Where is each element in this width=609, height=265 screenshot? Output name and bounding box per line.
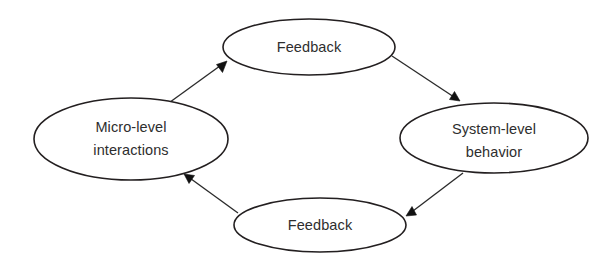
diagram-canvas: Feedback Micro-level interactions System… bbox=[0, 0, 609, 265]
feedback-loop-diagram: Feedback Micro-level interactions System… bbox=[0, 0, 609, 265]
arrowhead-icon bbox=[450, 92, 461, 102]
node-label-line-2: interactions bbox=[93, 142, 168, 158]
arrowhead-icon bbox=[217, 61, 228, 73]
edge-micro-to-feedback-top bbox=[166, 61, 227, 105]
edge-line bbox=[392, 56, 457, 99]
node-micro-level-interactions[interactable]: Micro-level interactions bbox=[34, 98, 228, 180]
edge-feedback-top-to-system bbox=[392, 56, 460, 101]
node-label-line-1: System-level bbox=[452, 121, 536, 137]
edge-line bbox=[166, 63, 224, 105]
edge-feedback-bottom-to-micro bbox=[184, 174, 238, 213]
edge-line bbox=[409, 173, 463, 214]
edge-system-to-feedback-bottom bbox=[406, 173, 463, 216]
node-feedback-top[interactable]: Feedback bbox=[223, 19, 395, 75]
node-label-line-1: Micro-level bbox=[95, 119, 166, 135]
node-label: Feedback bbox=[277, 39, 342, 55]
arrowhead-icon bbox=[184, 174, 195, 184]
node-feedback-bottom[interactable]: Feedback bbox=[234, 198, 406, 252]
arrowhead-icon bbox=[406, 207, 417, 217]
node-system-level-behavior[interactable]: System-level behavior bbox=[400, 103, 588, 173]
node-label-line-2: behavior bbox=[466, 144, 522, 160]
node-shape bbox=[34, 98, 228, 180]
edge-line bbox=[187, 176, 238, 213]
node-shape bbox=[400, 103, 588, 173]
node-label: Feedback bbox=[288, 217, 353, 233]
